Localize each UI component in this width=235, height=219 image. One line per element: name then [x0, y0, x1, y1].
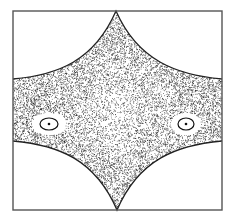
left-island-fixed-point	[48, 123, 51, 126]
background	[0, 0, 235, 219]
scatter-canvas	[0, 0, 235, 219]
phase-space-plot	[0, 0, 235, 219]
right-island-fixed-point	[185, 123, 188, 126]
